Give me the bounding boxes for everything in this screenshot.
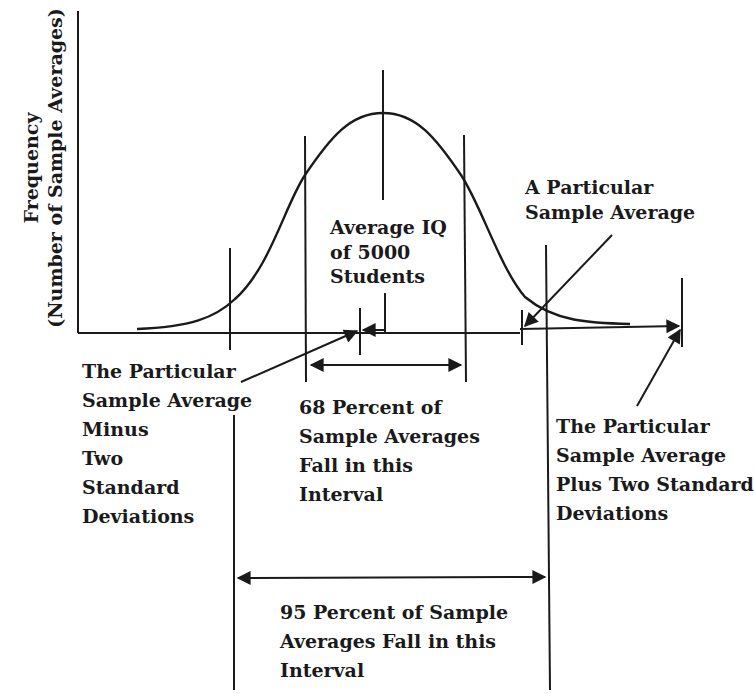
sd-minus-one-line — [305, 136, 306, 382]
particular-sample-label: A Particular Sample Average — [524, 176, 695, 223]
ninety-five-percent-label: 95 Percent of Sample Averages Fall in th… — [279, 601, 508, 681]
svg-text:A Particular: A Particular — [524, 176, 654, 198]
sampling-distribution-diagram: Frequency (Number of Sample Averages) Av… — [0, 0, 755, 700]
ninety-five-interval-arrow — [238, 577, 545, 578]
svg-text:Deviations: Deviations — [82, 505, 194, 527]
plus-two-sd-label: The Particular Sample Average Plus Two S… — [556, 415, 754, 524]
sd-plus-one-line — [464, 135, 466, 382]
svg-text:Interval: Interval — [280, 659, 364, 681]
y-axis-label-line2: (Number of Sample Averages) — [44, 8, 66, 328]
svg-text:95 Percent of Sample: 95 Percent of Sample — [280, 601, 508, 623]
svg-text:The Particular: The Particular — [82, 360, 237, 382]
minus-two-sd-pointer — [241, 331, 357, 382]
svg-text:Students: Students — [330, 265, 425, 287]
svg-text:of 5000: of 5000 — [330, 241, 410, 263]
svg-text:The Particular: The Particular — [556, 415, 711, 437]
svg-text:Sample Average: Sample Average — [525, 201, 695, 223]
svg-text:Deviations: Deviations — [556, 502, 668, 524]
svg-text:Two: Two — [82, 447, 123, 469]
svg-text:Average IQ: Average IQ — [329, 216, 447, 238]
svg-text:Sample Average: Sample Average — [82, 389, 252, 411]
svg-text:Averages Fall in this: Averages Fall in this — [279, 630, 496, 652]
svg-text:Plus Two Standard: Plus Two Standard — [556, 473, 754, 495]
svg-text:68 Percent of: 68 Percent of — [299, 396, 443, 418]
svg-text:Interval: Interval — [299, 483, 383, 505]
sixty-eight-percent-label: 68 Percent of Sample Averages Fall in th… — [299, 396, 480, 505]
svg-text:Minus: Minus — [82, 418, 149, 440]
particular-sample-pointer — [525, 235, 612, 326]
svg-text:Sample Averages: Sample Averages — [299, 425, 480, 447]
plus-two-sd-pointer — [637, 330, 680, 406]
svg-text:Sample Average: Sample Average — [556, 444, 726, 466]
svg-text:Fall in this: Fall in this — [299, 454, 413, 476]
minus-two-sd-label: The Particular Sample Average Minus Two … — [82, 360, 252, 527]
svg-text:Standard: Standard — [82, 476, 180, 498]
sample-to-plus-arrow — [520, 326, 679, 329]
average-iq-label: Average IQ of 5000 Students — [329, 216, 447, 287]
y-axis-label-line1: Frequency — [20, 112, 42, 224]
